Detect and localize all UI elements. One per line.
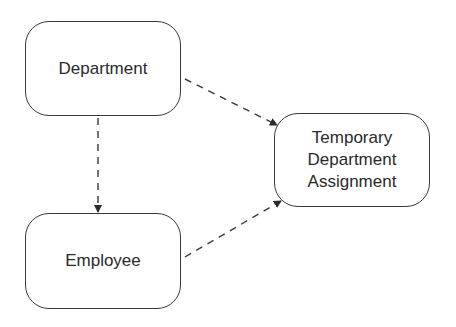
node-employee-label: Employee — [65, 250, 141, 272]
node-temporary-label-line-1: Temporary — [312, 127, 392, 149]
node-department: Department — [25, 21, 181, 116]
node-temporary-label-line-2: Department — [308, 149, 397, 171]
edge-employee-temporary — [185, 201, 281, 257]
node-temporary-department-assignment: Temporary Department Assignment — [274, 113, 430, 207]
node-department-label: Department — [59, 58, 148, 80]
node-temporary-label-line-3: Assignment — [308, 171, 397, 193]
edge-department-temporary — [185, 79, 277, 125]
node-employee: Employee — [25, 213, 181, 309]
